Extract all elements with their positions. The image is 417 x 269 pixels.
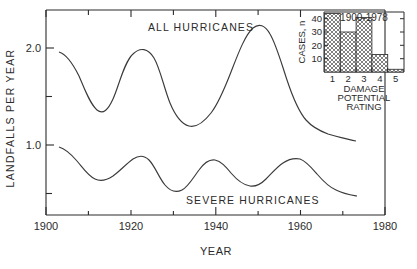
inset-y-tick-label: 40 xyxy=(311,13,322,24)
inset-y-tick-label: 30 xyxy=(311,26,322,37)
x-tick-label: 1920 xyxy=(119,220,143,232)
series-label-severe-hurricanes: SEVERE HURRICANES xyxy=(186,194,320,206)
y-tick-label: 2.0 xyxy=(26,42,41,54)
x-tick-label: 1940 xyxy=(204,220,228,232)
inset-title: 1900-1978 xyxy=(340,12,388,23)
inset-y-tick-labels: 10 20 30 40 xyxy=(311,13,322,64)
x-tick-labels: 1900 1920 1940 1960 1980 xyxy=(34,220,397,232)
series-line-severe-hurricanes xyxy=(59,147,357,196)
inset-bar xyxy=(388,69,404,72)
inset-y-tick-label: 20 xyxy=(311,40,322,51)
inset-x-tick-label: 5 xyxy=(393,73,398,84)
x-tick-label: 1960 xyxy=(288,220,312,232)
inset-bar xyxy=(325,14,341,73)
figure-canvas: 1900 1920 1940 1960 1980 YEAR 2.0 1.0 LA… xyxy=(0,0,417,269)
inset-x-tick-label: 1 xyxy=(330,73,335,84)
inset-y-tick-label: 10 xyxy=(311,53,322,64)
inset-bar xyxy=(356,18,372,73)
x-tick-label: 1900 xyxy=(34,220,58,232)
x-tick-label: 1980 xyxy=(373,220,397,232)
y-tick-label: 1.0 xyxy=(26,139,41,151)
y-tick-labels: 2.0 1.0 xyxy=(26,42,41,151)
y-axis-ticks xyxy=(46,48,54,194)
inset-histogram: 10 20 30 40 CASES, n 1900-1978 1 2 3 4 5… xyxy=(296,12,404,112)
y-axis-title: LANDFALLS PER YEAR xyxy=(4,49,16,188)
hurricane-landfalls-chart: 1900 1920 1940 1960 1980 YEAR 2.0 1.0 LA… xyxy=(0,0,417,269)
inset-bar xyxy=(372,55,388,73)
inset-x-axis-title-line: RATING xyxy=(346,101,381,112)
inset-x-axis-title: DAMAGE POTENTIAL RATING xyxy=(338,83,391,112)
x-axis-title: YEAR xyxy=(200,245,232,257)
inset-y-axis-title: CASES, n xyxy=(296,21,307,64)
series-label-all-hurricanes: ALL HURRICANES xyxy=(148,21,254,33)
inset-bar xyxy=(340,32,356,72)
